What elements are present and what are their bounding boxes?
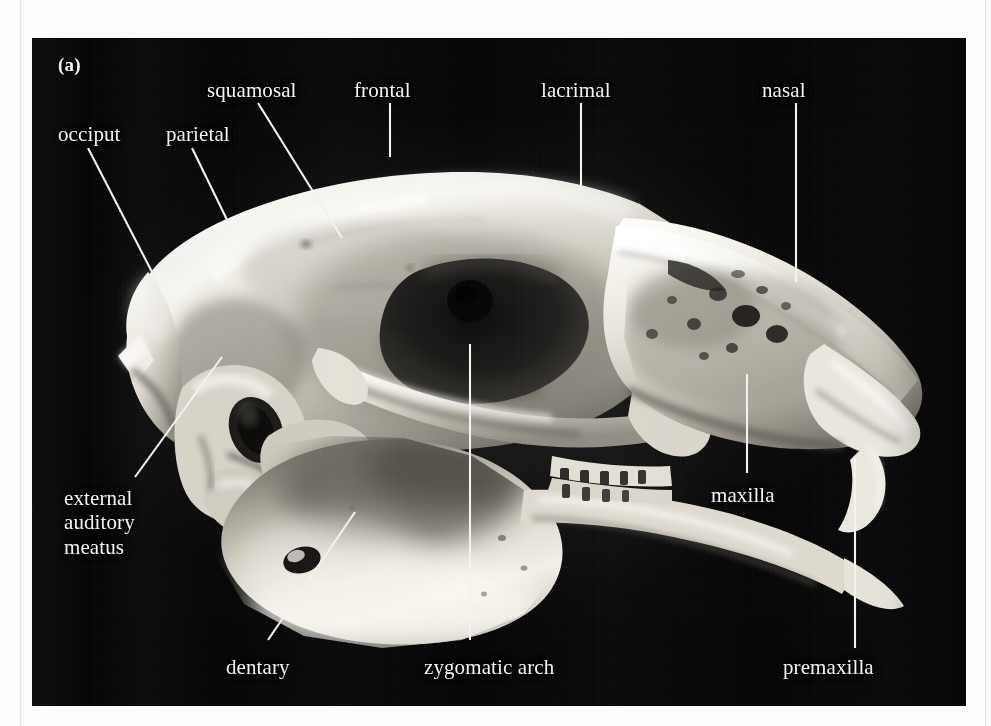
label-zygomatic-arch: zygomatic arch	[424, 655, 554, 679]
label-parietal: parietal	[166, 122, 230, 146]
label-dentary: dentary	[226, 655, 290, 679]
label-lacrimal: lacrimal	[541, 78, 611, 102]
label-frontal: frontal	[354, 78, 411, 102]
panel-letter: (a)	[58, 55, 81, 74]
label-occiput: occiput	[58, 122, 121, 146]
label-squamosal: squamosal	[207, 78, 297, 102]
page-edge-line-right	[985, 0, 986, 726]
page-edge-line-left	[20, 0, 21, 726]
label-external-auditory-meatus: external auditory meatus	[64, 486, 135, 559]
label-maxilla: maxilla	[711, 483, 775, 507]
label-premaxilla: premaxilla	[783, 655, 874, 679]
label-nasal: nasal	[762, 78, 806, 102]
page-sheet: (a) occiputparietalsquamosalfrontallacri…	[0, 0, 991, 726]
